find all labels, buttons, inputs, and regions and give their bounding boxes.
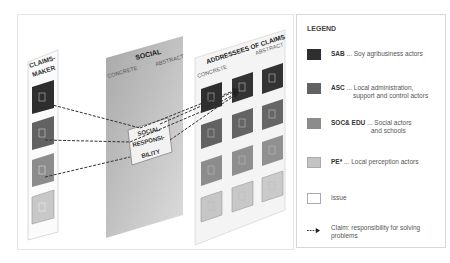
soc-edu-swatch <box>307 118 321 129</box>
claims-maker-panel: CLAIMS- MAKER <box>28 50 58 240</box>
asc-swatch <box>307 83 321 94</box>
pe-swatch <box>307 157 321 168</box>
dashed-arrow-icon <box>307 225 321 236</box>
legend-title: LEGEND <box>307 25 336 32</box>
diagram-canvas: CLAIMS- MAKER SOCIAL CONCRETE ABSTRACT A… <box>0 0 292 263</box>
addressees-panel: ADDRESSEES OF CLAIMS CONCRETE ABSTRACT <box>195 30 286 245</box>
sab-swatch <box>307 49 321 60</box>
legend: LEGEND SAB ... Soy agribusiness actors A… <box>296 14 446 248</box>
issue-swatch <box>307 193 321 204</box>
